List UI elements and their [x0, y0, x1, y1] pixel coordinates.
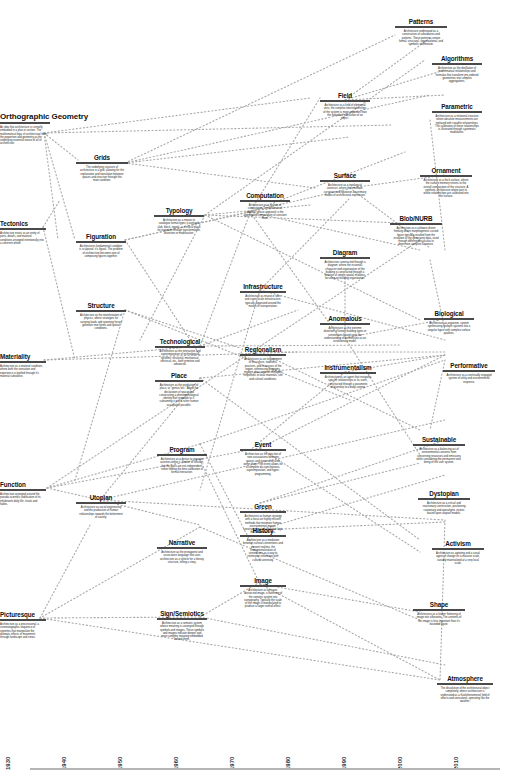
- node-blob-nurb: Blob/NURBArchitecture as a software driv…: [390, 215, 442, 247]
- node-description: Architecture as a means to catalogue for…: [154, 219, 204, 235]
- node-image: ImageArchitecture as an iconic abstracte…: [240, 577, 286, 609]
- node-description: Architecture as a software driven thinki…: [390, 227, 442, 247]
- node-underline: [240, 585, 286, 587]
- node-underline: [76, 241, 126, 243]
- node-shape: ShapeArchitecture as a further flattenin…: [413, 601, 465, 626]
- node-underline: [320, 100, 370, 102]
- node-title: Parametric: [432, 103, 482, 110]
- node-title: Diagram: [320, 249, 370, 256]
- node-title: Structure: [76, 302, 126, 309]
- node-title: Picturesque: [0, 611, 46, 618]
- node-description: Architecture as an agent that instigates…: [320, 376, 376, 389]
- node-description: Architecture as a mediation between cult…: [240, 539, 286, 562]
- node-narrative: NarrativeArchitecture as the protagonist…: [157, 539, 207, 564]
- node-description: Architecture as the extreme distortion o…: [320, 327, 370, 343]
- node-description: Architecture as the manifestation of phy…: [76, 314, 126, 330]
- node-title: Technological: [155, 338, 205, 345]
- node-event: EventArchitecture as the injection of ne…: [240, 441, 286, 476]
- node-underline: [240, 200, 290, 202]
- node-underline: [240, 354, 286, 356]
- node-underline: [432, 548, 484, 550]
- node-description: Architecture as the interaction and supe…: [155, 350, 205, 366]
- node-field: FieldArchitecture as a field of elementa…: [320, 92, 370, 120]
- node-title: Computation: [240, 192, 290, 199]
- node-title: Grids: [76, 154, 128, 161]
- node-computation: ComputationArchitecture as a system of c…: [240, 192, 290, 220]
- node-parametric: ParametricArchitecture as a relational s…: [432, 103, 482, 135]
- node-underline: [420, 175, 472, 177]
- node-underline: [240, 449, 286, 451]
- node-picturesque: PicturesqueArchitecture as a processiona…: [0, 611, 46, 639]
- node-figuration: FigurationArchitectures fundamental cond…: [76, 233, 126, 258]
- node-underline: [76, 310, 126, 312]
- node-biological: BiologicalArchitecture as organism, syst…: [424, 310, 474, 335]
- node-performative: PerformativeArchitecture as a continuall…: [443, 362, 495, 384]
- node-description: Architecture as a topological construct,…: [320, 184, 370, 197]
- node-description: Architecture as organism, system synthes…: [424, 322, 474, 335]
- node-underline: [432, 111, 482, 113]
- node-title: Figuration: [76, 233, 126, 240]
- node-algorithms: AlgorithmsArchitecture as the distillati…: [432, 55, 482, 83]
- node-underline: [443, 370, 495, 372]
- node-underline: [432, 63, 482, 65]
- node-atmosphere: AtmosphereThe dissolution of the archite…: [437, 675, 493, 703]
- node-description: Architecture as a system of computation,…: [240, 204, 290, 220]
- node-anomalous: AnomalousArchitecture as the extreme dis…: [320, 315, 370, 343]
- node-description: Architecture as agitating and a social a…: [432, 552, 484, 565]
- node-underline: [155, 346, 205, 348]
- node-underline: [320, 257, 370, 259]
- node-underline: [157, 547, 207, 549]
- node-title: Atmosphere: [437, 675, 493, 682]
- node-materiality: MaterialityArchitecture as a material co…: [0, 353, 46, 378]
- node-description: Architecture as a critical and reactiona…: [418, 502, 470, 515]
- node-description: Architecture as a device to organize act…: [157, 458, 207, 474]
- node-description: Architecture constructed through a diagr…: [320, 261, 370, 281]
- node-description: Architecture as a processional, a cinema…: [0, 623, 46, 639]
- node-description: Architecture as the distillation of math…: [432, 67, 482, 83]
- node-title: Ornament: [420, 167, 472, 174]
- node-description: Architecture understood as a constructio…: [395, 30, 447, 46]
- node-title: Performative: [443, 362, 495, 369]
- node-typology: TypologyArchitecture as a means to catal…: [154, 207, 204, 235]
- node-description: Architecture as a semiotic system whose …: [157, 622, 207, 642]
- node-description: Architecture as a relational structure w…: [432, 115, 482, 135]
- node-title: Activism: [432, 540, 484, 547]
- node-description: Architectures fundamental condition is s…: [76, 245, 126, 258]
- node-underline: [320, 372, 376, 374]
- node-title: Orthographic Geometry: [0, 112, 50, 121]
- node-underline: [240, 535, 286, 537]
- node-description: Architecture as a further flattening of …: [413, 613, 465, 626]
- node-underline: [155, 380, 203, 382]
- node-title: Event: [240, 441, 286, 448]
- node-title: Function: [0, 481, 46, 488]
- node-surface: SurfaceArchitecture as a topological con…: [320, 172, 370, 197]
- node-description: Architecture arranged around the pseudo-…: [0, 493, 46, 506]
- node-underline: [424, 318, 474, 320]
- node-title: Anomalous: [320, 315, 370, 322]
- node-title: Field: [320, 92, 370, 99]
- node-title: Biological: [424, 310, 474, 317]
- node-title: History: [240, 527, 286, 534]
- node-description: Architecture as a material condition, wh…: [0, 365, 46, 378]
- node-title: Infrastructure: [240, 283, 286, 290]
- node-title: Dystopian: [418, 490, 470, 497]
- node-sign-semiotics: Sign/SemioticsArchitecture as a semiotic…: [157, 610, 207, 642]
- node-title: Sign/Semiotics: [157, 610, 207, 617]
- node-underline: [76, 502, 126, 504]
- node-description: Architecture as the production of place,…: [155, 384, 203, 407]
- node-technological: TechnologicalArchitecture as the interac…: [155, 338, 205, 366]
- node-history: HistoryArchitecture as a mediation betwe…: [240, 527, 286, 562]
- node-underline: [240, 511, 286, 513]
- node-description: Architecture as a balancing act of envir…: [413, 448, 465, 464]
- node-title: Regionalism: [240, 346, 286, 353]
- node-ornament: OrnamentArchitecture as a thick surface,…: [420, 167, 472, 199]
- node-underline: [0, 228, 46, 230]
- node-description: An idea that architecture is centrally e…: [0, 126, 50, 146]
- node-title: Algorithms: [432, 55, 482, 62]
- node-sustainable: SustainableArchitecture as a balancing a…: [413, 436, 465, 464]
- node-underline: [413, 444, 465, 446]
- node-orthographic-geometry: Orthographic GeometryAn idea that archit…: [0, 112, 50, 146]
- node-title: Narrative: [157, 539, 207, 546]
- node-activism: ActivismArchitecture as agitating and a …: [432, 540, 484, 565]
- node-instrumentalism: InstrumentalismArchitecture as an agent …: [320, 364, 376, 389]
